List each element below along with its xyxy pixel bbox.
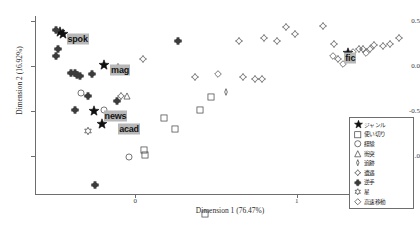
legend-marker-circle-icon — [352, 139, 364, 148]
genre-label-spok: spok — [67, 33, 89, 44]
genre-label-news: news — [104, 111, 128, 122]
legend-label: ジャンル — [364, 122, 385, 128]
legend-label: 遭遇 — [364, 170, 375, 176]
x-axis-title: Dimension 1 (76.47%) — [150, 206, 310, 215]
data-point-cross-star — [76, 71, 85, 80]
data-point-cross-star — [52, 52, 61, 61]
legend-marker-lens-icon — [352, 159, 364, 168]
data-point-diamond4 — [139, 55, 148, 64]
data-point-star-filled — [89, 106, 100, 117]
legend-label: 星 — [364, 189, 369, 195]
data-point-cross-star — [52, 26, 61, 35]
data-point-diamond4 — [330, 39, 339, 48]
data-point-square — [141, 151, 149, 159]
legend-marker-triangle-icon — [352, 149, 364, 158]
legend-label: 経験 — [364, 141, 375, 147]
data-point-diamond-thin — [214, 70, 222, 78]
data-point-diamond4 — [259, 34, 268, 43]
data-point-cross-star — [70, 105, 79, 114]
data-point-diamond4 — [273, 37, 282, 46]
data-point-lens — [222, 88, 230, 96]
data-point-cross-star — [88, 70, 97, 79]
data-point-diamond4 — [191, 72, 200, 81]
legend-item-8[interactable]: 高速移動 — [352, 197, 412, 207]
x-tick-label: 0 — [125, 197, 145, 205]
legend-item-4[interactable]: 追跡 — [352, 158, 412, 168]
data-point-diamond4 — [282, 23, 291, 32]
data-point-cross-star — [84, 92, 93, 101]
legend-marker-cross-star-icon — [352, 178, 364, 187]
data-point-star-filled — [98, 60, 109, 71]
data-point-diamond4 — [238, 72, 247, 81]
data-point-diamond-thin — [329, 52, 337, 60]
legend-item-7[interactable]: 星 — [352, 187, 412, 197]
data-point-diamond4 — [291, 30, 300, 39]
data-point-star-open — [84, 126, 93, 135]
data-point-diamond4 — [258, 75, 267, 84]
x-tick-label: 1 — [287, 197, 307, 205]
legend-label: 衝突 — [364, 150, 375, 156]
data-point-diamond-thin — [362, 49, 370, 57]
data-point-cross-star — [112, 97, 121, 106]
data-point-diamond4 — [386, 40, 395, 49]
legend-marker-square-icon — [352, 130, 364, 139]
legend-item-3[interactable]: 衝突 — [352, 149, 412, 159]
data-point-cross-star — [174, 37, 183, 46]
legend-marker-star-filled-icon — [352, 120, 364, 129]
data-point-square — [207, 93, 215, 101]
data-point-circle — [125, 154, 133, 162]
chart-legend: ジャンル使い切り経験衝突追跡遭遇逆手星高速移動 — [349, 117, 414, 209]
data-point-square — [171, 125, 179, 133]
legend-item-5[interactable]: 遭遇 — [352, 168, 412, 178]
legend-label: 使い切り — [364, 131, 385, 137]
y-axis-title: Dimension 2 (16.92%) — [15, 11, 24, 151]
data-point-square — [160, 114, 168, 122]
genre-label-mag: mag — [110, 65, 130, 76]
legend-marker-star-open-icon — [352, 187, 364, 196]
legend-item-0[interactable]: ジャンル — [352, 120, 412, 130]
data-point-square — [196, 106, 204, 114]
legend-item-2[interactable]: 経験 — [352, 139, 412, 149]
data-point-diamond4 — [318, 22, 327, 31]
data-point-diamond4 — [234, 37, 243, 46]
chart-root: 0.50.0-0.5-1.0 01 Dimension 2 (16.92%) D… — [0, 0, 420, 230]
legend-marker-diamond4-icon — [352, 168, 364, 177]
genre-label-fic: fic — [344, 52, 356, 63]
data-point-cross-star — [91, 181, 100, 190]
data-point-diamond4 — [395, 34, 404, 43]
legend-item-6[interactable]: 逆手 — [352, 178, 412, 188]
legend-label: 追跡 — [364, 160, 375, 166]
legend-item-1[interactable]: 使い切り — [352, 130, 412, 140]
data-point-square — [202, 210, 210, 218]
genre-label-acad: acad — [118, 124, 140, 135]
legend-label: 高速移動 — [364, 198, 385, 204]
data-point-diamond4 — [370, 41, 379, 50]
legend-marker-diamond-thin-icon — [352, 197, 364, 206]
legend-label: 逆手 — [364, 179, 375, 185]
